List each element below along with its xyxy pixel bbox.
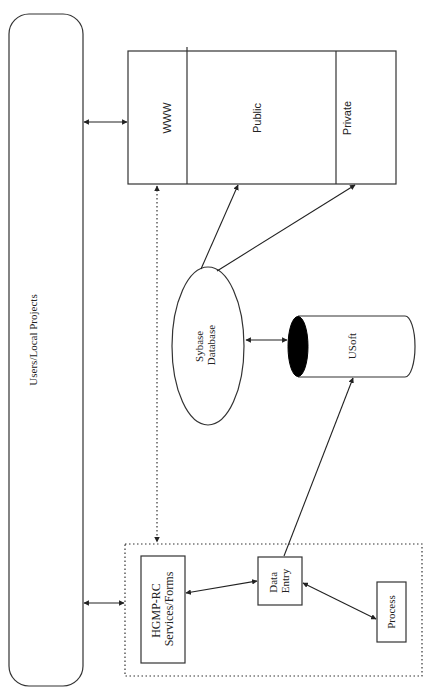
public-label: Public — [251, 103, 263, 133]
process-label: Process — [385, 595, 397, 629]
users-local-projects-label: Users/Local Projects — [27, 294, 39, 385]
edge-data-entry-usoft — [284, 378, 353, 556]
www-label: WWW — [161, 102, 173, 134]
private-label: Private — [341, 101, 353, 135]
sybase-label-line2: Database — [205, 325, 217, 365]
usoft-label: USoft — [346, 333, 358, 359]
hgmp-label-line2: Services/Forms — [162, 571, 176, 646]
edge-sybase-private — [217, 185, 355, 271]
hgmp-label-line1: HGMP-RC — [149, 583, 163, 638]
sybase-label: Sybase Database — [193, 325, 217, 365]
usoft-database-node: USoft — [288, 316, 415, 377]
data-entry-label: Data Entry — [267, 568, 291, 593]
edge-data-entry-process — [303, 583, 376, 619]
web-server-node: WWW Public Private — [128, 47, 396, 184]
sybase-label-line1: Sybase — [193, 331, 205, 362]
hgmp-services-forms-node: HGMP-RC Services/Forms — [141, 556, 185, 663]
data-entry-label-line1: Data — [267, 572, 279, 593]
hgmp-label: HGMP-RC Services/Forms — [149, 571, 176, 646]
edge-sybase-public — [201, 185, 238, 269]
data-entry-label-line2: Entry — [279, 568, 291, 593]
data-entry-node: Data Entry — [258, 557, 302, 605]
architecture-diagram: Users/Local Projects WWW Public Private … — [0, 0, 435, 690]
process-node: Process — [377, 582, 406, 642]
sybase-database-node: Sybase Database — [172, 267, 244, 425]
edge-hgmp-data-entry — [186, 581, 257, 593]
usoft-cylinder-cap — [288, 317, 308, 377]
users-local-projects-node: Users/Local Projects — [9, 14, 83, 686]
